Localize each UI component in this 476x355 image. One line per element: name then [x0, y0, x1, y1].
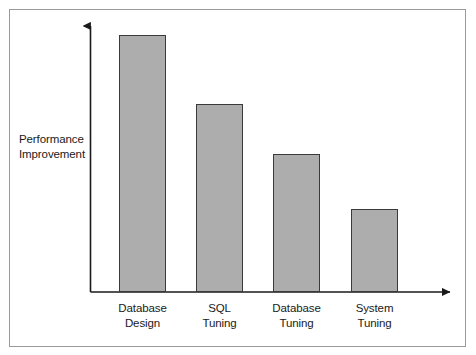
chart-screenshot: Performance Improvement Database Design … [0, 0, 476, 355]
x-tick-label-system-tuning: System Tuning [325, 301, 425, 331]
bar-sql-tuning [196, 104, 243, 292]
y-axis-label-line-2: Improvement [19, 147, 87, 162]
bar-database-tuning [273, 154, 320, 292]
plot-area: Performance Improvement Database Design … [0, 0, 476, 355]
x-tick-label-line-2: Tuning [325, 316, 425, 331]
bar-database-design [119, 35, 166, 292]
bar-system-tuning [351, 209, 398, 292]
x-tick-label-line-1: System [325, 301, 425, 316]
y-axis-label-line-1: Performance [19, 132, 87, 147]
y-axis-label: Performance Improvement [19, 132, 87, 162]
